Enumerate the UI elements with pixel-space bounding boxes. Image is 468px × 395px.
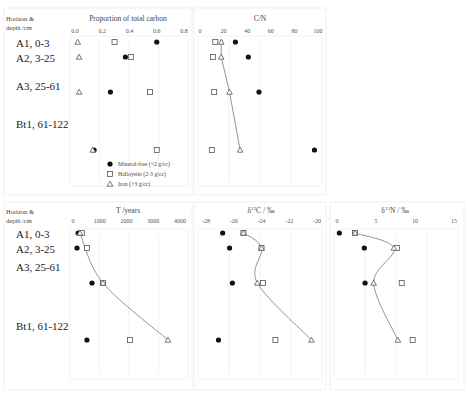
data-point-circle: [362, 245, 367, 250]
axis-title: C/N: [254, 14, 267, 23]
legend-triangle-icon: [107, 181, 113, 186]
data-point-circle: [220, 230, 225, 235]
chart-panel-3: δ13C / ‰-28-26-24-22-20: [194, 202, 326, 390]
data-point-square: [399, 281, 404, 286]
data-point-triangle: [371, 280, 377, 285]
horizon-label: A3, 25-61: [16, 80, 61, 92]
data-point-circle: [233, 39, 238, 44]
x-tick-label: 3000: [147, 218, 159, 224]
legend-label: Halloysite (2-3 g/cc): [118, 171, 166, 178]
chart-figure: Proportion of total carbon0.00.20.40.60.…: [0, 0, 468, 395]
data-point-circle: [216, 337, 221, 342]
horizon-label: A1, 0-3: [16, 37, 50, 49]
x-tick-label: 60: [268, 28, 274, 34]
legend-circle-icon: [107, 161, 112, 166]
data-point-circle: [74, 245, 79, 250]
x-tick-label: 15: [451, 218, 457, 224]
axis-title: T /years: [116, 206, 140, 215]
x-tick-label: 100: [314, 28, 323, 34]
axis-title: δ13C / ‰: [248, 206, 275, 215]
x-tick-label: 0: [336, 218, 339, 224]
data-point-triangle: [227, 89, 233, 94]
x-tick-label: 0.6: [153, 28, 161, 34]
data-point-circle: [227, 245, 232, 250]
horizon-label: A1, 0-3: [16, 228, 50, 240]
data-point-square: [127, 338, 132, 343]
x-tick-label: 20: [221, 28, 227, 34]
x-tick-label: 1000: [94, 218, 106, 224]
panel-frame: [330, 202, 464, 390]
data-point-circle: [362, 280, 367, 285]
data-point-square: [147, 90, 152, 95]
data-point-triangle: [255, 280, 261, 285]
data-point-square: [212, 90, 217, 95]
horizon-label: A2, 3-25: [16, 243, 56, 255]
horizon-label: Bt1, 61-122: [16, 118, 69, 130]
data-point-square: [128, 55, 133, 60]
trend-line: [221, 42, 240, 150]
legend-square-icon: [108, 172, 113, 177]
x-tick-label: 0.4: [126, 28, 134, 34]
data-point-circle: [154, 39, 159, 44]
legend-label: Iron (>3 g/cc): [118, 181, 150, 188]
data-point-square: [112, 40, 117, 45]
axis-title: Proportion of total carbon: [89, 14, 167, 23]
data-point-circle: [246, 54, 251, 59]
x-tick-label: 5: [375, 218, 378, 224]
data-point-square: [210, 55, 215, 60]
legend-label: Mineral-free (<2 g/cc): [118, 161, 170, 168]
x-tick-label: 0: [72, 218, 75, 224]
data-point-square: [260, 281, 265, 286]
data-point-triangle: [76, 89, 82, 94]
data-point-circle: [256, 89, 261, 94]
x-tick-label: 2000: [121, 218, 133, 224]
x-tick-label: 0.8: [180, 28, 188, 34]
horizon-label: A3, 25-61: [16, 261, 61, 273]
data-point-square: [410, 338, 415, 343]
x-tick-label: 0.2: [99, 28, 107, 34]
data-point-circle: [337, 230, 342, 235]
x-tick-label: -28: [202, 218, 210, 224]
x-tick-label: 4000: [174, 218, 186, 224]
data-point-triangle: [76, 54, 82, 59]
data-point-circle: [312, 147, 317, 152]
trend-line: [243, 233, 311, 340]
x-tick-label: -20: [313, 218, 321, 224]
horizon-label: Bt1, 61-122: [16, 320, 69, 332]
data-point-triangle: [218, 54, 224, 59]
data-point-triangle: [237, 147, 243, 152]
data-point-triangle: [75, 39, 81, 44]
x-tick-label: -24: [258, 218, 266, 224]
chart-panel-4: δ15N / ‰051015: [330, 202, 464, 390]
data-point-circle: [123, 54, 128, 59]
data-point-square: [273, 338, 278, 343]
axis-title: δ15N / ‰: [381, 206, 409, 215]
data-point-circle: [108, 89, 113, 94]
data-point-circle: [89, 280, 94, 285]
trend-line: [80, 233, 168, 340]
x-tick-label: 80: [291, 28, 297, 34]
data-point-triangle: [218, 39, 224, 44]
x-tick-label: 40: [244, 28, 250, 34]
data-point-square: [213, 40, 218, 45]
x-tick-label: 0.0: [71, 28, 79, 34]
data-point-circle: [230, 280, 235, 285]
x-tick-label: -26: [230, 218, 238, 224]
x-tick-label: 0: [199, 28, 202, 34]
data-point-square: [209, 148, 214, 153]
data-point-square: [84, 246, 89, 251]
data-point-circle: [84, 337, 89, 342]
horizon-label: A2, 3-25: [16, 52, 56, 64]
x-tick-label: -22: [285, 218, 293, 224]
x-tick-label: 10: [412, 218, 418, 224]
data-point-square: [154, 148, 159, 153]
chart-panel-1: C/N020406080100: [194, 8, 326, 195]
